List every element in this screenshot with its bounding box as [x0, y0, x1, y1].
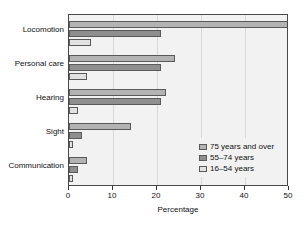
bar — [69, 141, 73, 148]
x-tick-mark — [200, 186, 201, 190]
bar — [69, 39, 91, 46]
x-tick-mark — [112, 186, 113, 190]
x-tick-mark — [156, 186, 157, 190]
bar — [69, 175, 73, 182]
bar-group — [69, 85, 287, 119]
bar — [69, 132, 82, 139]
x-tick-mark — [68, 186, 69, 190]
legend-swatch-icon — [199, 166, 207, 172]
bar-group — [69, 17, 287, 51]
legend-label: 55–74 years — [210, 152, 254, 163]
x-tick-mark — [244, 186, 245, 190]
legend-item: 16–54 years — [199, 163, 274, 174]
bar — [69, 123, 131, 130]
legend-swatch-icon — [199, 144, 207, 150]
bar — [69, 73, 87, 80]
legend-swatch-icon — [199, 155, 207, 161]
bar — [69, 98, 161, 105]
x-tick-label: 30 — [185, 191, 215, 201]
chart-figure: LocomotionPersonal careHearingSightCommu… — [0, 0, 304, 228]
x-tick-label: 40 — [229, 191, 259, 201]
x-tick-label: 10 — [97, 191, 127, 201]
bar-group — [69, 51, 287, 85]
legend-label: 75 years and over — [210, 141, 274, 152]
legend-item: 75 years and over — [199, 141, 274, 152]
bar — [69, 107, 78, 114]
category-label: Personal care — [0, 59, 64, 68]
bar — [69, 157, 87, 164]
category-label: Hearing — [0, 93, 64, 102]
bar — [69, 55, 175, 62]
category-label: Communication — [0, 161, 64, 170]
bar — [69, 64, 161, 71]
bar — [69, 30, 161, 37]
x-tick-label: 0 — [53, 191, 83, 201]
category-label: Locomotion — [0, 25, 64, 34]
x-tick-label: 20 — [141, 191, 171, 201]
x-axis-title: Percentage — [68, 205, 288, 214]
bar — [69, 166, 78, 173]
legend-label: 16–54 years — [210, 163, 254, 174]
chart-legend: 75 years and over55–74 years16–54 years — [196, 138, 278, 177]
bar — [69, 21, 288, 28]
legend-item: 55–74 years — [199, 152, 274, 163]
x-tick-label: 50 — [273, 191, 303, 201]
category-label: Sight — [0, 127, 64, 136]
bar — [69, 89, 166, 96]
x-tick-mark — [288, 186, 289, 190]
